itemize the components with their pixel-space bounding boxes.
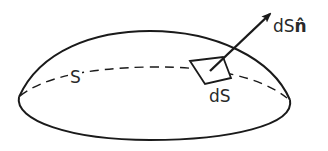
vector-label: dSn̂ bbox=[273, 18, 307, 35]
element-label: dS bbox=[209, 88, 231, 105]
surface-integral-diagram: S dS dSn̂ bbox=[0, 0, 328, 151]
vector-label-prefix: dS bbox=[273, 16, 295, 36]
base-front-curve bbox=[19, 97, 291, 140]
surface-label: S bbox=[70, 69, 81, 86]
unit-normal-symbol: n̂ bbox=[295, 16, 307, 36]
dome-outline bbox=[19, 31, 290, 100]
base-back-dashed-curve bbox=[20, 67, 287, 98]
